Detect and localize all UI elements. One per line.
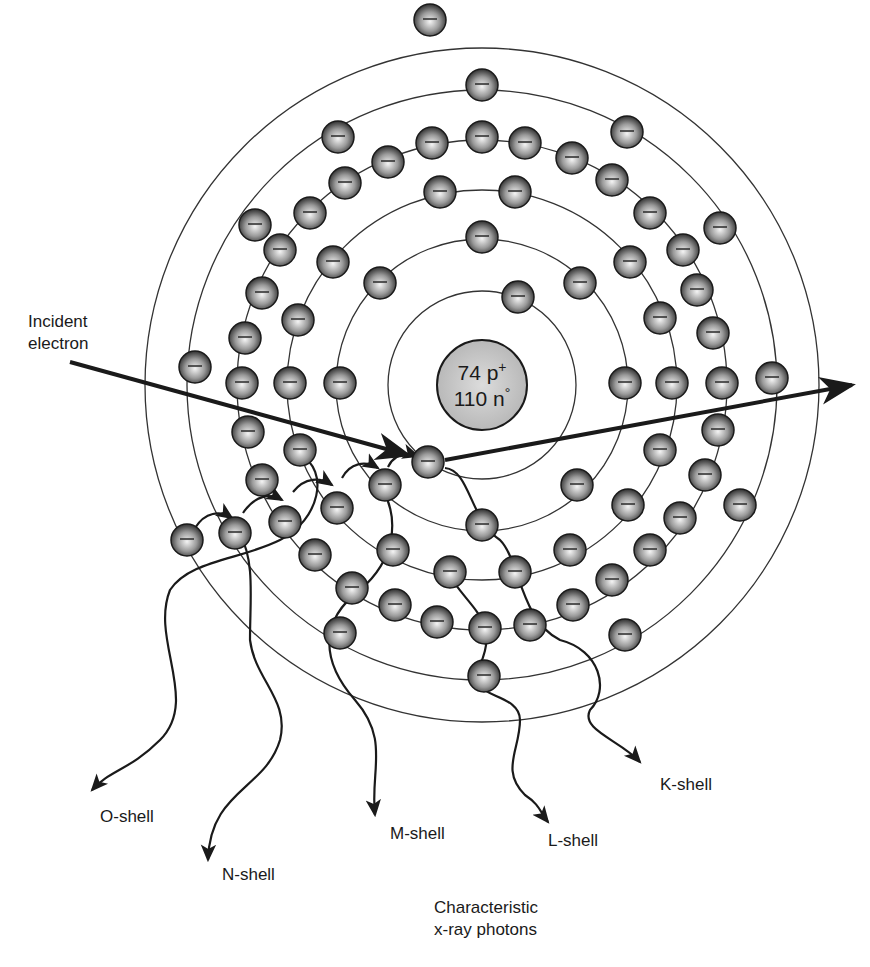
electron-icon: [706, 367, 738, 399]
electron-icon: [514, 609, 546, 641]
electron-icon: [509, 127, 541, 159]
neutrons-label: 110 n°: [454, 385, 511, 410]
electron-icon: [317, 246, 349, 278]
electron-icon: [561, 469, 593, 501]
electron-icon: [322, 121, 354, 153]
caption: Characteristic x-ray photons: [434, 897, 538, 941]
electron-icon: [364, 267, 396, 299]
electron-icon: [274, 367, 306, 399]
electron-icon: [232, 416, 264, 448]
electron-icon: [664, 502, 696, 534]
electron-icon: [554, 534, 586, 566]
electron-icon: [681, 274, 713, 306]
electron-icon: [644, 434, 676, 466]
nucleus: 74 p+ 110 n°: [437, 340, 527, 430]
electron-icon: [756, 362, 788, 394]
electron-icon: [499, 556, 531, 588]
caption-line1: Characteristic: [434, 897, 538, 919]
electron-icon: [416, 127, 448, 159]
electron-icon: [612, 489, 644, 521]
caption-line2: x-ray photons: [434, 919, 538, 941]
electron-icon: [219, 517, 251, 549]
electron-icon: [294, 197, 326, 229]
electron-icon: [321, 492, 353, 524]
l-shell-label: L-shell: [548, 830, 598, 852]
electron-icon: [704, 212, 736, 244]
electron-icon: [336, 572, 368, 604]
electron-icon: [469, 612, 501, 644]
electron-icon: [468, 660, 500, 692]
electron-icon: [372, 146, 404, 178]
electron-icon: [724, 489, 756, 521]
electron-icon: [421, 606, 453, 638]
electron-icon: [564, 267, 596, 299]
electron-icon: [171, 524, 203, 556]
electron-icon: [556, 142, 588, 174]
electron-icon: [329, 167, 361, 199]
electron-icon: [644, 302, 676, 334]
electron-icon: [611, 116, 643, 148]
electron-icon: [596, 564, 628, 596]
electron-icon: [596, 164, 628, 196]
electron-icon: [609, 619, 641, 651]
electron-icon: [246, 464, 278, 496]
incident-label-line1: Incident: [28, 311, 88, 333]
electron-icon: [239, 209, 271, 241]
photon-path-n-shell: [208, 535, 282, 860]
electron-icon: [299, 539, 331, 571]
electron-icon: [502, 281, 534, 313]
electron-icon: [466, 509, 498, 541]
electron-icon: [324, 617, 356, 649]
electron-icon: [466, 69, 498, 101]
photon-path-o-shell: [92, 455, 317, 790]
electron-icon: [264, 234, 296, 266]
electron-icon: [697, 317, 729, 349]
electron-icon: [284, 434, 316, 466]
electron-icon: [377, 534, 409, 566]
k-shell-label: K-shell: [660, 774, 712, 796]
electron-icon: [379, 589, 411, 621]
electron-icon: [229, 322, 261, 354]
electron-icon: [667, 234, 699, 266]
electron-icon: [369, 469, 401, 501]
electron-icon: [269, 506, 301, 538]
electron-icon: [179, 351, 211, 383]
incident-electron-label: Incident electron: [28, 311, 88, 355]
incident-label-line2: electron: [28, 333, 88, 355]
electron-icon: [557, 589, 589, 621]
electron-icon: [702, 414, 734, 446]
electron-icon: [466, 121, 498, 153]
electron-icon: [324, 367, 356, 399]
electron-icon: [412, 446, 444, 478]
electron-icon: [499, 176, 531, 208]
m-shell-label: M-shell: [390, 823, 445, 845]
electron-icon: [466, 221, 498, 253]
electron-icon: [226, 367, 258, 399]
electron-icon: [614, 246, 646, 278]
electron-icon: [434, 556, 466, 588]
electron-icon: [634, 534, 666, 566]
electron-icon: [246, 277, 278, 309]
electron-icon: [414, 4, 446, 36]
electron-icon: [424, 176, 456, 208]
electron-icon: [609, 367, 641, 399]
electron-icon: [634, 197, 666, 229]
photon-paths: [92, 454, 640, 860]
o-shell-label: O-shell: [100, 806, 154, 828]
electron-icon: [689, 459, 721, 491]
electron-icon: [282, 304, 314, 336]
electron-icon: [656, 367, 688, 399]
n-shell-label: N-shell: [222, 864, 275, 886]
